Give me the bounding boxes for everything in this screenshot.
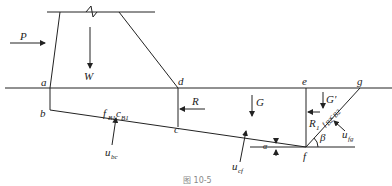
beta-arc (314, 138, 318, 147)
label-beta: β (319, 131, 326, 143)
label-fB1-sub: B1 (108, 114, 116, 122)
dam-downstream-face (119, 12, 178, 88)
label-R1-sub: 1 (316, 124, 320, 132)
label-ufg-sub: fg (348, 135, 354, 143)
label-b: b (40, 107, 46, 119)
label-ucf-sub: cf (238, 167, 244, 175)
force-ucf-arrow (240, 131, 246, 162)
label-W: W (84, 70, 94, 82)
dam-upstream-face (50, 12, 60, 88)
force-ubc-arrow (112, 118, 116, 145)
label-R: R (191, 95, 199, 107)
label-c: c (174, 123, 179, 135)
label-e: e (302, 75, 307, 87)
label-R1: R (308, 117, 316, 129)
sliding-stability-diagram: a b c d e f g P W R G G' R 1 u bc u cf u… (0, 0, 392, 186)
label-g: g (357, 75, 363, 87)
label-a: a (41, 76, 47, 88)
label-P: P (19, 30, 27, 42)
label-Gprime: G' (326, 93, 337, 105)
figure-caption: 图 10-5 (183, 176, 212, 185)
label-ubc-sub: bc (111, 153, 119, 161)
label-d: d (178, 75, 184, 87)
label-G: G (256, 96, 264, 108)
label-f: f (303, 150, 308, 162)
label-cB1-sub: B1 (121, 114, 129, 122)
